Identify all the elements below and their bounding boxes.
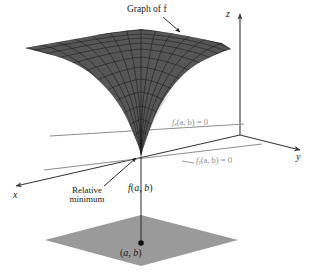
x-axis-label: x	[13, 190, 17, 201]
relative-minimum-line2: minimum	[58, 195, 116, 204]
relative-minimum-label: Relative minimum	[58, 186, 116, 205]
surface-plot-figure: Graph of f z y x fx(a, b) = 0 fy(a, b) =…	[0, 0, 311, 276]
graph-of-f-label: Graph of f	[127, 5, 167, 15]
fy-condition-label: fy(a, b) = 0	[196, 156, 232, 166]
fy-rest: (a, b) = 0	[201, 155, 232, 165]
height-label: f(a, b) f(a, b)	[128, 183, 152, 194]
z-axis-label: z	[226, 9, 230, 20]
fx-rest: (a, b) = 0	[177, 117, 208, 127]
y-axis-label: y	[296, 152, 300, 163]
fx-condition-label: fx(a, b) = 0	[172, 118, 208, 128]
surface-graph-of-f	[25, 29, 231, 158]
figure-canvas	[0, 0, 311, 276]
plane-point-label: (a, b) (a, b)	[120, 248, 142, 259]
y-axis	[240, 135, 300, 150]
surface-fill	[25, 29, 231, 158]
graph-of-f-leader	[163, 17, 180, 32]
plane-point-marker	[138, 240, 144, 246]
fy-label-dash	[182, 161, 194, 163]
